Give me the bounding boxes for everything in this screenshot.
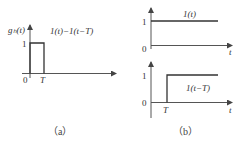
panel-a: gₕ(t) 1(t)−1(t−T) 1 0 T （a） bbox=[8, 25, 116, 137]
caption-b: （b） bbox=[173, 126, 198, 137]
origin-label: 0 bbox=[142, 44, 147, 54]
y-tick-1: 1 bbox=[142, 17, 147, 27]
x-tick-T: T bbox=[163, 105, 169, 115]
caption-a: （a） bbox=[48, 126, 72, 137]
x-tick-0: 0 bbox=[23, 75, 28, 85]
panel-b-bottom: 1(t−T) 1 0 T t （b） bbox=[142, 62, 232, 137]
figure: gₕ(t) 1(t)−1(t−T) 1 0 T （a） 1(t) 1 0 t 1… bbox=[0, 0, 244, 150]
panel-b-top: 1(t) 1 0 t bbox=[142, 8, 232, 57]
origin-label: 0 bbox=[142, 98, 147, 108]
curve-label: 1(t−T) bbox=[186, 83, 210, 93]
y-tick-1: 1 bbox=[22, 39, 27, 49]
y-tick-1: 1 bbox=[142, 71, 147, 81]
pulse-curve bbox=[30, 43, 44, 74]
curve-label: 1(t)−1(t−T) bbox=[50, 26, 93, 36]
x-axis-label: t bbox=[229, 47, 232, 57]
curve-label: 1(t) bbox=[183, 9, 196, 19]
y-axis-label: gₕ(t) bbox=[8, 25, 25, 35]
x-axis-label: t bbox=[229, 105, 232, 115]
diagram-canvas: gₕ(t) 1(t)−1(t−T) 1 0 T （a） 1(t) 1 0 t 1… bbox=[0, 0, 244, 150]
x-tick-T: T bbox=[40, 75, 46, 85]
